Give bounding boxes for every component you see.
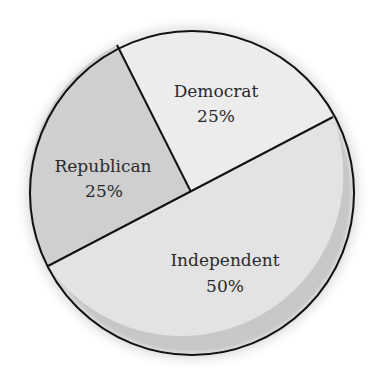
label-independent: Independent: [170, 250, 279, 270]
pct-republican: 25%: [85, 181, 123, 201]
label-democrat: Democrat: [174, 81, 259, 101]
pie-chart-svg: Democrat 25% Republican 25% Independent …: [0, 0, 381, 379]
pct-independent: 50%: [206, 276, 244, 296]
pie-chart: Democrat 25% Republican 25% Independent …: [0, 0, 381, 379]
label-republican: Republican: [54, 156, 151, 176]
pct-democrat: 25%: [197, 106, 235, 126]
